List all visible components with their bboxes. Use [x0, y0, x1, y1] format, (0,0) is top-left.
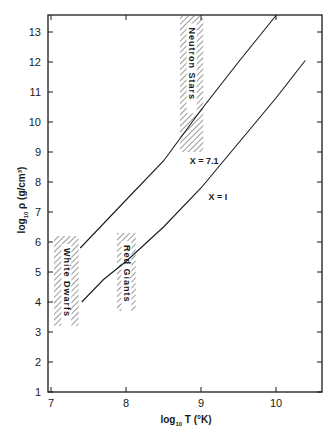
label-x-1: X = I: [209, 192, 228, 202]
x-tick-label: 8: [123, 397, 129, 409]
red-giants-region: Red Giants: [117, 233, 136, 312]
y-tick-label: 13: [29, 26, 41, 38]
x-tick-label: 10: [270, 397, 282, 409]
y-tick-label: 5: [35, 266, 41, 278]
y-tick-label: 1: [35, 386, 41, 398]
y-tick-label: 4: [35, 296, 41, 308]
stellar-regions: White DwarfsRed GiantsNeutron Stars: [54, 16, 203, 328]
density-temperature-chart: White DwarfsRed GiantsNeutron Stars 1234…: [0, 0, 336, 439]
y-tick-label: 3: [35, 326, 41, 338]
y-tick-label: 10: [29, 116, 41, 128]
x-tick-label: 7: [48, 397, 54, 409]
white-dwarfs-label: White Dwarfs: [62, 248, 72, 317]
y-tick-label: 9: [35, 146, 41, 158]
y-tick-label: 11: [30, 86, 41, 98]
y-tick-label: 8: [35, 176, 41, 188]
y-tick-label: 6: [35, 236, 41, 248]
y-tick-label: 12: [29, 56, 41, 68]
white-dwarfs-region: White Dwarfs: [54, 236, 79, 328]
y-tick-label: 2: [35, 356, 41, 368]
y-tick-label: 7: [35, 206, 41, 218]
neutron-stars-region: Neutron Stars: [180, 16, 203, 153]
axis-tick-labels: 1234567891011121378910: [29, 26, 282, 409]
curve-x-7-1: [80, 16, 276, 249]
neutron-stars-label: Neutron Stars: [187, 28, 197, 101]
red-giants-label: Red Giants: [122, 245, 132, 303]
label-x-7-1: X = 7.1: [190, 156, 219, 166]
x-tick-label: 9: [198, 397, 204, 409]
